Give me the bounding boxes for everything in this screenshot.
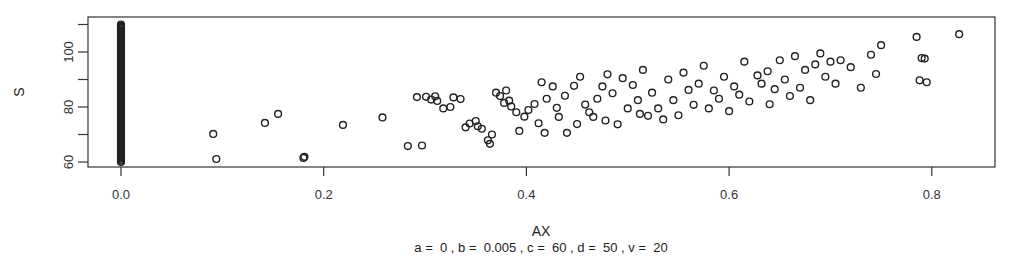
data-points <box>118 21 963 165</box>
y-axis-title: S <box>11 87 27 96</box>
data-point <box>553 104 560 111</box>
data-point <box>695 80 702 87</box>
data-point <box>690 101 697 108</box>
data-point <box>817 50 824 57</box>
data-point <box>450 94 457 101</box>
data-point <box>665 76 672 83</box>
data-point <box>812 61 819 68</box>
x-tick-label: 0.2 <box>315 187 333 202</box>
data-point <box>721 73 728 80</box>
data-point <box>574 121 581 128</box>
data-point <box>262 120 269 127</box>
data-point <box>525 107 532 114</box>
x-tick-label: 0.0 <box>112 187 130 202</box>
data-point <box>680 69 687 76</box>
data-point <box>602 117 609 124</box>
data-point <box>731 83 738 90</box>
data-point <box>746 98 753 105</box>
data-point <box>447 104 454 111</box>
x-tick-label: 0.4 <box>517 187 535 202</box>
data-point <box>535 120 542 127</box>
data-point <box>655 105 662 112</box>
y-tick-label: 60 <box>61 155 76 169</box>
data-point <box>766 101 773 108</box>
data-point <box>340 121 347 128</box>
data-point <box>807 97 814 104</box>
data-point <box>640 66 647 73</box>
data-point <box>660 116 667 123</box>
data-point <box>457 96 464 103</box>
data-point <box>624 105 631 112</box>
data-point <box>379 114 386 121</box>
data-point <box>916 77 923 84</box>
data-point <box>516 128 523 135</box>
data-point <box>213 156 220 163</box>
data-point <box>710 87 717 94</box>
data-point <box>754 72 761 79</box>
data-point <box>564 129 571 136</box>
data-point <box>649 89 656 96</box>
data-point <box>555 114 562 121</box>
data-point <box>764 68 771 75</box>
data-point <box>832 80 839 87</box>
data-point <box>873 71 880 78</box>
data-point <box>822 73 829 80</box>
data-point <box>781 76 788 83</box>
data-point <box>716 95 723 102</box>
data-point <box>577 73 584 80</box>
y-tick-label: 80 <box>61 100 76 114</box>
data-point <box>857 84 864 91</box>
data-point <box>419 142 426 149</box>
data-point <box>594 95 601 102</box>
data-point <box>549 83 556 90</box>
data-point <box>776 57 783 64</box>
data-point <box>619 75 626 82</box>
data-point <box>847 64 854 71</box>
data-point <box>590 114 597 121</box>
chart-caption: a = 0 , b = 0.005 , c = 60 , d = 50 , v … <box>414 240 667 255</box>
data-point <box>878 42 885 49</box>
data-point <box>923 79 930 86</box>
data-point <box>634 97 641 104</box>
data-point <box>562 92 569 99</box>
data-point <box>614 121 621 128</box>
data-point <box>531 101 538 108</box>
data-point <box>802 66 809 73</box>
x-axis: 0.00.20.40.60.8 <box>112 167 941 202</box>
data-point <box>645 112 652 119</box>
data-point <box>571 82 578 89</box>
data-point <box>609 90 616 97</box>
data-point <box>414 94 421 101</box>
data-point <box>670 97 677 104</box>
x-tick-label: 0.8 <box>923 187 941 202</box>
data-point <box>705 105 712 112</box>
data-point <box>700 62 707 69</box>
y-axis: 6080100 <box>61 25 88 170</box>
data-point <box>489 131 496 138</box>
data-point <box>868 51 875 58</box>
data-point <box>685 87 692 94</box>
scatter-plot: 6080100 0.00.20.40.60.8 AX a = 0 , b = 0… <box>0 0 1016 269</box>
data-point <box>736 91 743 98</box>
data-point <box>404 143 411 150</box>
data-point <box>797 84 804 91</box>
data-point <box>440 105 447 112</box>
data-point <box>604 71 611 78</box>
data-point <box>837 57 844 64</box>
data-point <box>637 110 644 117</box>
data-point <box>538 79 545 86</box>
data-point <box>629 82 636 89</box>
data-point <box>462 124 469 131</box>
plot-frame <box>88 17 995 167</box>
data-point <box>675 112 682 119</box>
data-point <box>792 53 799 60</box>
data-point <box>582 101 589 108</box>
data-point <box>771 86 778 93</box>
data-point <box>827 58 834 65</box>
data-point <box>956 31 963 38</box>
data-point <box>741 58 748 65</box>
data-point <box>787 93 794 100</box>
data-point <box>541 129 548 136</box>
data-point <box>543 95 550 102</box>
y-tick-label: 100 <box>61 41 76 63</box>
